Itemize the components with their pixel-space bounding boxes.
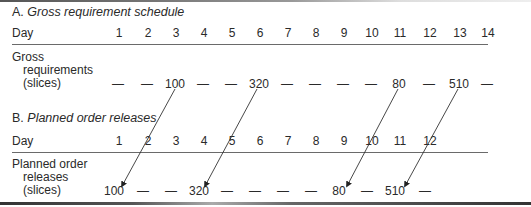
- arrow-80: [347, 89, 398, 186]
- arrow-510: [405, 89, 458, 186]
- arrow-100: [122, 89, 175, 186]
- bottom-border: [0, 202, 531, 205]
- arrow-320: [205, 89, 257, 186]
- offset-arrows: [0, 0, 531, 207]
